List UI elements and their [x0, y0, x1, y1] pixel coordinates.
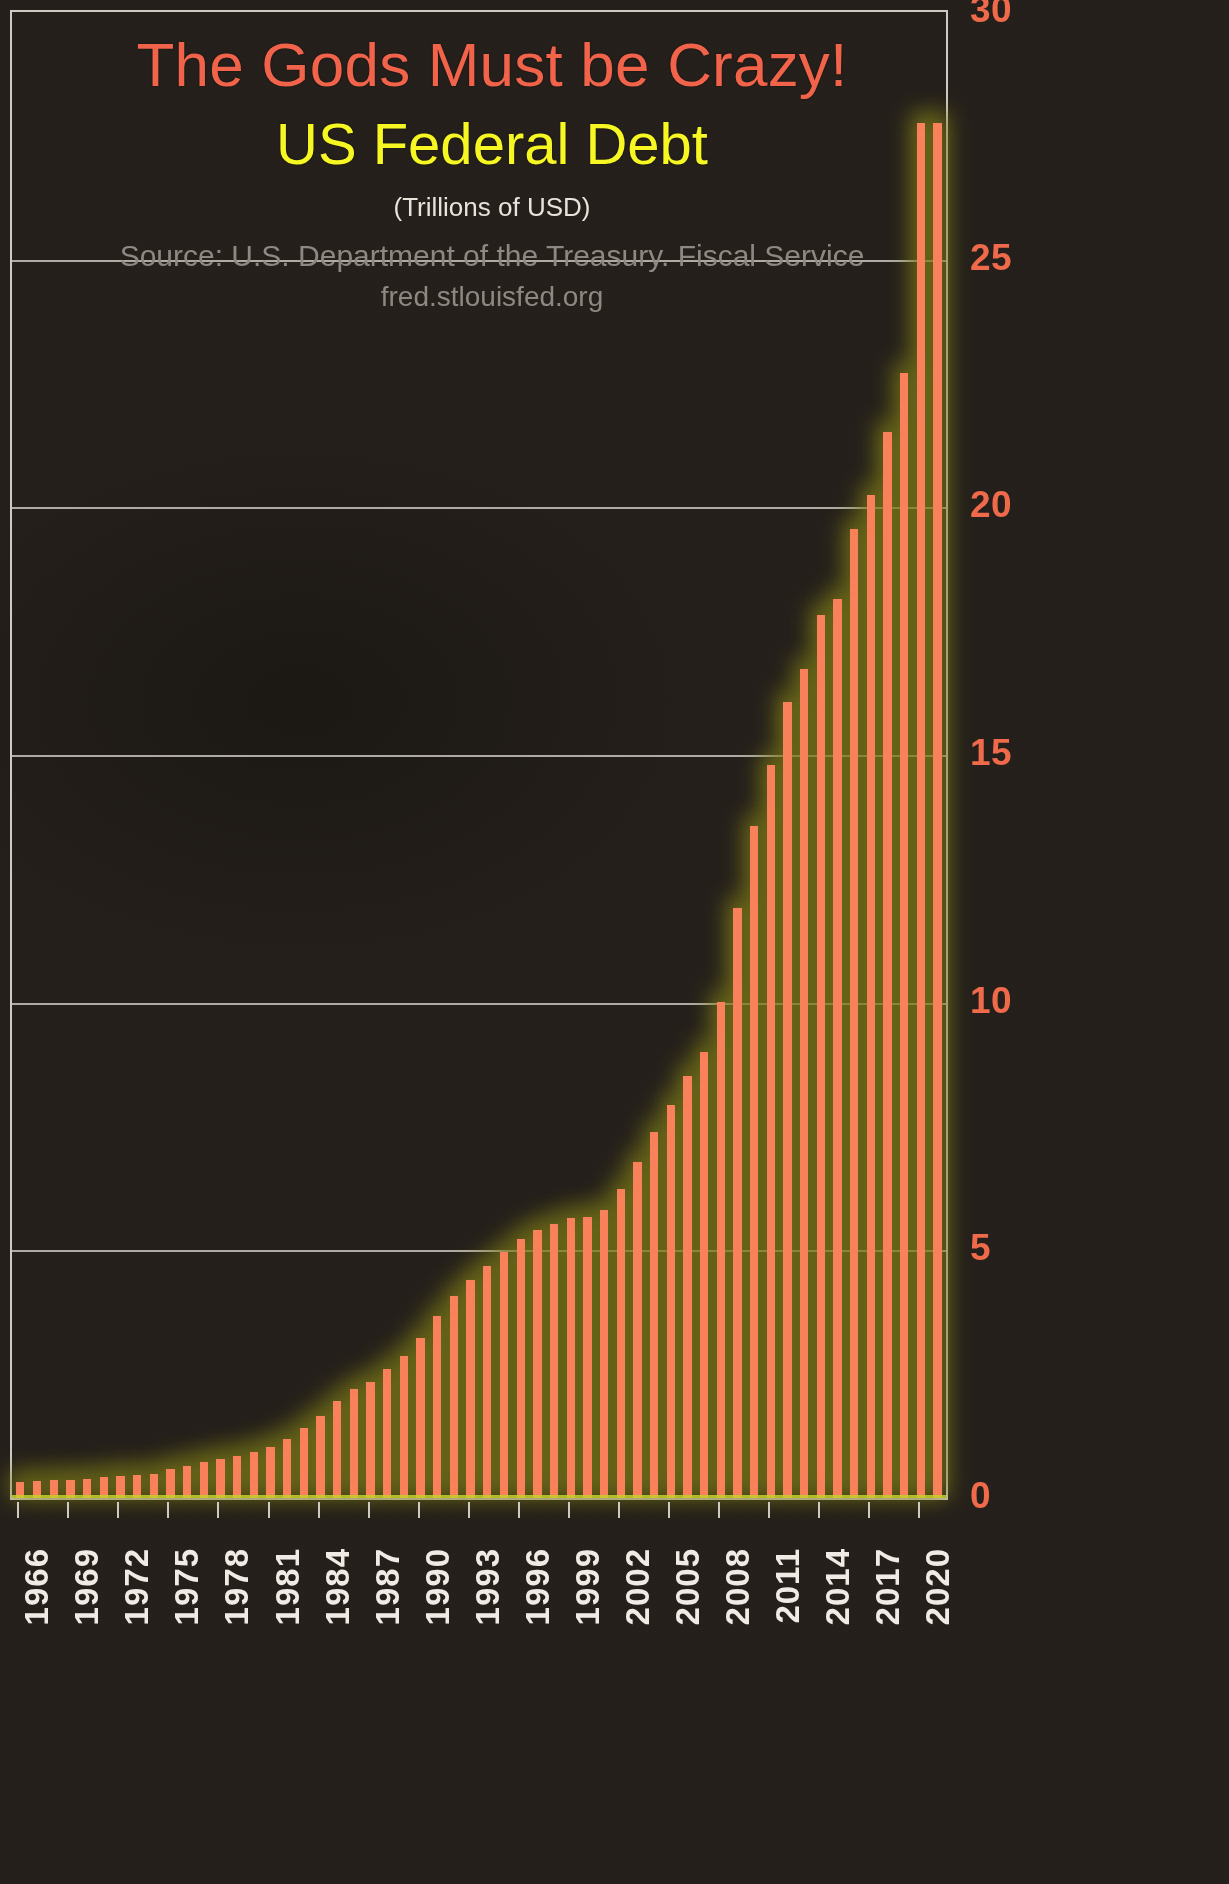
x-axis-tickmark-1969	[67, 1502, 69, 1518]
x-axis-tick-label: 1975	[168, 1548, 206, 1625]
x-axis-tickmark-1981	[268, 1502, 270, 1518]
bar-2019	[900, 373, 908, 1498]
chart-units-label: (Trillions of USD)	[24, 193, 960, 222]
x-axis-tickmark-1972	[117, 1502, 119, 1518]
x-axis-tickmark-2020	[918, 1502, 920, 1518]
y-axis: 051015202530	[960, 0, 1070, 1520]
bar-2013	[800, 669, 808, 1498]
bar-2003	[633, 1162, 641, 1498]
x-axis-tickmark-2011	[768, 1502, 770, 1518]
x-axis-tick-label: 1978	[218, 1548, 256, 1625]
bar-2009	[733, 908, 741, 1498]
bar-1995	[500, 1252, 508, 1498]
x-axis-tickmark-2002	[618, 1502, 620, 1518]
x-axis-tickmark-1993	[468, 1502, 470, 1518]
plot-area: The Gods Must be Crazy! US Federal Debt …	[10, 10, 948, 1500]
bar-1989	[400, 1356, 408, 1498]
bar-2007	[700, 1052, 708, 1498]
bar-2017	[867, 495, 875, 1498]
bar-2021	[933, 123, 941, 1498]
bar-1992	[450, 1296, 458, 1498]
bar-1988	[383, 1369, 391, 1498]
bar-2005	[667, 1105, 675, 1498]
x-axis-tick-label: 1984	[319, 1548, 357, 1625]
x-axis-tick-label: 2014	[819, 1548, 857, 1625]
bar-2008	[717, 1002, 725, 1498]
x-axis: 1966196919721975197819811984198719901993…	[10, 1502, 948, 1884]
x-axis-tickmark-2005	[668, 1502, 670, 1518]
x-axis-tick-label: 1990	[419, 1548, 457, 1625]
bar-1975	[166, 1469, 174, 1498]
bar-1984	[316, 1416, 324, 1498]
x-axis-tick-label: 2017	[869, 1548, 907, 1625]
bar-2020	[917, 123, 925, 1498]
bar-1980	[250, 1452, 258, 1498]
y-axis-tick-0: 0	[970, 1475, 991, 1517]
x-axis-tickmark-1996	[518, 1502, 520, 1518]
x-axis-tick-label: 1966	[18, 1548, 56, 1625]
x-axis-tickmark-2017	[868, 1502, 870, 1518]
bar-1983	[300, 1428, 308, 1498]
bar-2011	[767, 765, 775, 1498]
bar-1987	[366, 1382, 374, 1498]
x-axis-tickmark-1987	[368, 1502, 370, 1518]
bar-1990	[416, 1338, 424, 1498]
y-axis-tick-20: 20	[970, 484, 1012, 526]
bar-1981	[266, 1447, 274, 1498]
bar-2006	[683, 1076, 691, 1498]
bar-1996	[517, 1239, 525, 1498]
x-axis-tick-label: 1999	[569, 1548, 607, 1625]
bar-2016	[850, 529, 858, 1498]
x-axis-tick-label: 2008	[719, 1548, 757, 1625]
bar-2001	[600, 1210, 608, 1498]
x-axis-tickmark-2008	[718, 1502, 720, 1518]
bar-2014	[817, 615, 825, 1498]
x-axis-tick-label: 1987	[369, 1548, 407, 1625]
bar-2010	[750, 826, 758, 1498]
bar-1976	[183, 1466, 191, 1498]
bar-2004	[650, 1132, 658, 1498]
y-axis-tick-15: 15	[970, 732, 1012, 774]
bar-1994	[483, 1266, 491, 1498]
bar-2018	[883, 432, 891, 1498]
x-axis-tickmark-1966	[17, 1502, 19, 1518]
x-axis-tickmark-1999	[568, 1502, 570, 1518]
x-axis-tick-label: 1981	[269, 1548, 307, 1625]
source-url: fred.stlouisfed.org	[24, 277, 960, 318]
baseline	[12, 1495, 946, 1498]
bar-1982	[283, 1439, 291, 1498]
x-axis-tick-label: 1993	[469, 1548, 507, 1625]
x-axis-tick-label: 1996	[519, 1548, 557, 1625]
x-axis-tick-label: 2002	[619, 1548, 657, 1625]
x-axis-tickmark-1978	[217, 1502, 219, 1518]
title-block: The Gods Must be Crazy! US Federal Debt …	[24, 30, 960, 318]
source-block: Source: U.S. Department of the Treasury.…	[24, 234, 960, 318]
bar-1997	[533, 1230, 541, 1498]
bar-1999	[567, 1218, 575, 1498]
bar-2002	[617, 1189, 625, 1498]
x-axis-tickmark-1975	[167, 1502, 169, 1518]
x-axis-tickmark-1984	[318, 1502, 320, 1518]
bar-1991	[433, 1316, 441, 1498]
bar-2012	[783, 702, 791, 1498]
bar-1977	[200, 1462, 208, 1498]
bar-2000	[583, 1217, 591, 1498]
y-axis-tick-25: 25	[970, 237, 1012, 279]
y-axis-tick-30: 30	[970, 0, 1012, 31]
x-axis-tickmark-2014	[818, 1502, 820, 1518]
bar-1979	[233, 1456, 241, 1498]
y-axis-tick-5: 5	[970, 1227, 991, 1269]
x-axis-tickmark-1990	[418, 1502, 420, 1518]
x-axis-tick-label: 1969	[68, 1548, 106, 1625]
x-axis-tick-label: 2011	[769, 1548, 807, 1624]
chart-page: The Gods Must be Crazy! US Federal Debt …	[0, 0, 1229, 1884]
chart-title-sub: US Federal Debt	[24, 109, 960, 179]
bar-1978	[216, 1459, 224, 1498]
x-axis-tick-label: 1972	[118, 1548, 156, 1625]
bar-1998	[550, 1224, 558, 1498]
y-axis-tick-10: 10	[970, 980, 1012, 1022]
x-axis-tick-label: 2005	[669, 1548, 707, 1625]
bar-1985	[333, 1401, 341, 1498]
chart-title-main: The Gods Must be Crazy!	[24, 30, 960, 99]
bar-1993	[466, 1280, 474, 1498]
